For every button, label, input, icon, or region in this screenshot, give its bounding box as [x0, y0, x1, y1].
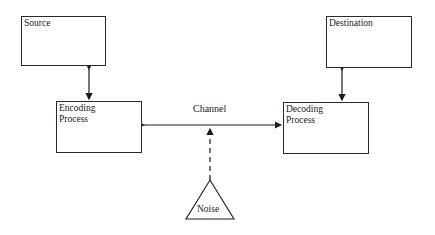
channel-label: Channel: [193, 103, 226, 114]
decoding-process-box: Decoding Process: [283, 102, 369, 154]
encoding-process-box: Encoding Process: [56, 101, 142, 153]
destination-label: Destination: [329, 18, 409, 29]
destination-box: Destination: [326, 16, 412, 68]
encoding-label-line1: Encoding: [59, 103, 139, 114]
noise-label: Noise: [197, 204, 219, 214]
encoding-label-line2: Process: [59, 114, 139, 125]
decoding-label-line2: Process: [286, 115, 366, 126]
source-box: Source: [21, 16, 106, 66]
source-label: Source: [24, 18, 103, 29]
decoding-label-line1: Decoding: [286, 104, 366, 115]
